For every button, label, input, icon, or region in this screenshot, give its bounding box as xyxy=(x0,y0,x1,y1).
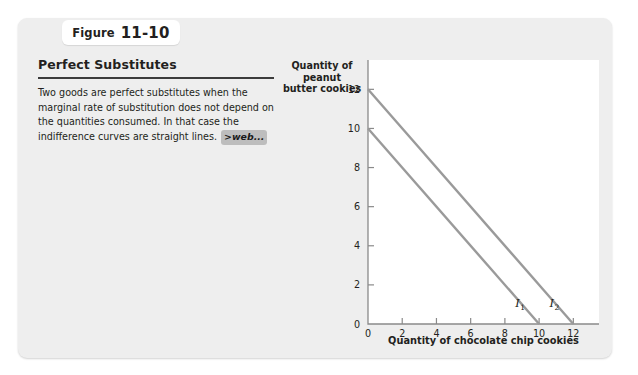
x-axis-label: Quantity of chocolate chip cookies xyxy=(368,335,599,346)
figure-label-word: Figure xyxy=(72,26,114,40)
indifference-curve-I1 xyxy=(368,128,539,324)
chart-container: Quantity of peanut butter cookies 024681… xyxy=(280,52,608,352)
indifference-curve-I2 xyxy=(368,89,573,324)
y-tick-label: 4 xyxy=(354,240,360,251)
description-panel: Perfect Substitutes Two goods are perfec… xyxy=(38,57,274,145)
plot-svg: 024681012024681012I1I2 xyxy=(280,52,608,352)
web-badge[interactable]: >web... xyxy=(221,130,267,146)
y-tick-label: 10 xyxy=(348,123,360,134)
y-tick-label: 12 xyxy=(348,84,360,95)
panel-divider xyxy=(38,77,274,79)
figure-number: 11-10 xyxy=(121,24,170,42)
y-tick-label: 0 xyxy=(354,319,360,330)
panel-body: Two goods are perfect substitutes when t… xyxy=(38,86,274,145)
curve-label-I1: I1 xyxy=(514,296,525,312)
y-tick-label: 8 xyxy=(354,162,360,173)
panel-title: Perfect Substitutes xyxy=(38,57,274,72)
y-tick-label: 2 xyxy=(354,279,360,290)
curve-label-I2: I2 xyxy=(548,296,559,312)
axis-lines xyxy=(368,60,599,324)
figure-page: Figure 11-10 Perfect Substitutes Two goo… xyxy=(0,0,638,375)
figure-number-tab: Figure 11-10 xyxy=(62,20,180,45)
y-tick-label: 6 xyxy=(354,201,360,212)
